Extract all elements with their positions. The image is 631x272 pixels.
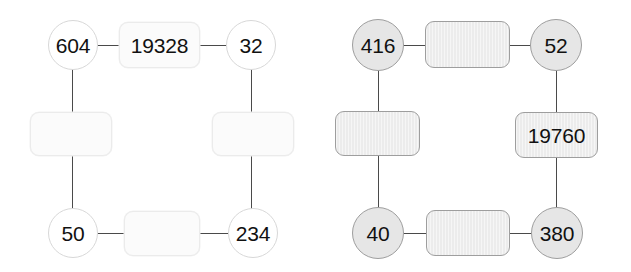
edge-bottom-left-to-bottom-middle [96, 233, 127, 234]
edge-top-right-to-middle-right [251, 62, 252, 116]
edge-bottom-middle-to-bottom-right [197, 233, 228, 234]
edge-middle-left-to-bottom-left [72, 154, 73, 212]
edge-middle-right-to-bottom-right [251, 154, 252, 212]
node-label: 604 [56, 35, 90, 56]
node-middle-left-empty[interactable] [335, 111, 420, 156]
node-label: 380 [540, 223, 574, 244]
node-label: 234 [236, 223, 270, 244]
node-label: 40 [367, 223, 390, 244]
node-top-middle-empty[interactable] [425, 21, 510, 68]
edge-top-middle-to-top-right [509, 45, 531, 46]
diagram-canvas: 604 19328 32 50 234 [0, 0, 631, 272]
node-label: 32 [240, 35, 263, 56]
node-19328[interactable]: 19328 [119, 22, 200, 68]
node-50[interactable]: 50 [48, 208, 98, 258]
graph-right: 416 52 19760 40 380 [315, 0, 631, 272]
node-label: 52 [545, 35, 568, 56]
node-label: 19760 [528, 125, 585, 146]
node-19760[interactable]: 19760 [515, 112, 598, 158]
edge-top-left-to-top-middle [403, 45, 425, 46]
node-604[interactable]: 604 [48, 20, 98, 70]
node-label: 19328 [131, 35, 188, 56]
node-bottom-middle-empty[interactable] [426, 210, 510, 256]
node-234[interactable]: 234 [228, 208, 278, 258]
node-bottom-middle-empty[interactable] [124, 211, 200, 256]
node-label: 416 [361, 35, 395, 56]
node-32[interactable]: 32 [226, 20, 276, 70]
edge-top-middle-to-top-right [198, 45, 226, 46]
edge-middle-right-to-bottom-right [556, 157, 557, 212]
graph-left: 604 19328 32 50 234 [0, 0, 315, 272]
edge-top-left-to-middle-left [72, 62, 73, 116]
node-middle-right-empty[interactable] [212, 112, 294, 156]
node-middle-left-empty[interactable] [30, 112, 112, 156]
node-40[interactable]: 40 [352, 207, 404, 259]
node-380[interactable]: 380 [531, 207, 583, 259]
node-416[interactable]: 416 [352, 19, 404, 71]
node-52[interactable]: 52 [530, 19, 582, 71]
edge-middle-left-to-bottom-left [378, 155, 379, 211]
node-label: 50 [62, 223, 85, 244]
edge-bottom-left-to-bottom-middle [403, 233, 427, 234]
edge-bottom-middle-to-bottom-right [509, 233, 533, 234]
